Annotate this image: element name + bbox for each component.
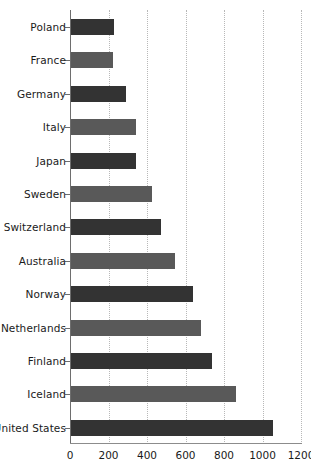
bar[interactable] (71, 253, 175, 269)
x-tick-label: 1200 (288, 449, 311, 461)
bar-row[interactable]: Netherlands (0, 318, 311, 351)
x-tick-label: 0 (67, 449, 74, 461)
bar[interactable] (71, 19, 114, 35)
bar-row[interactable]: Japan (0, 151, 311, 184)
bar-row[interactable]: Norway (0, 284, 311, 317)
bar-row[interactable]: France (0, 50, 311, 83)
category-label: France (0, 54, 66, 66)
bar[interactable] (71, 119, 136, 135)
bar-chart: PolandFranceGermanyItalyJapanSwedenSwitz… (0, 0, 311, 471)
category-label: Finland (0, 355, 66, 367)
bar[interactable] (71, 386, 236, 402)
bar-row[interactable]: Australia (0, 251, 311, 284)
category-label: Norway (0, 288, 66, 300)
bar-row[interactable]: Germany (0, 84, 311, 117)
category-label: Netherlands (0, 322, 66, 334)
category-label: Switzerland (0, 221, 66, 233)
bar[interactable] (71, 86, 126, 102)
category-label: Japan (0, 155, 66, 167)
bar-row[interactable]: Poland (0, 17, 311, 50)
bar[interactable] (71, 219, 161, 235)
category-label: Germany (0, 88, 66, 100)
bar-row[interactable]: Finland (0, 351, 311, 384)
category-label: Poland (0, 21, 66, 33)
bar-row[interactable]: Iceland (0, 384, 311, 417)
bar-row[interactable]: Italy (0, 117, 311, 150)
bar-row[interactable]: Switzerland (0, 217, 311, 250)
bar-row[interactable]: Sweden (0, 184, 311, 217)
bar[interactable] (71, 420, 273, 436)
x-tick-label: 1000 (249, 449, 276, 461)
x-tick-label: 400 (137, 449, 157, 461)
category-label: United States (0, 422, 66, 434)
bar[interactable] (71, 153, 136, 169)
bar[interactable] (71, 186, 152, 202)
category-label: Iceland (0, 388, 66, 400)
x-tick-label: 800 (214, 449, 234, 461)
bar[interactable] (71, 286, 193, 302)
category-label: Italy (0, 121, 66, 133)
bar-row[interactable]: United States (0, 418, 311, 451)
bar[interactable] (71, 320, 201, 336)
x-tick-label: 200 (98, 449, 118, 461)
category-label: Sweden (0, 188, 66, 200)
bar[interactable] (71, 353, 212, 369)
x-axis-tick-labels: 020040060080010001200 (0, 449, 311, 469)
x-tick-label: 600 (175, 449, 195, 461)
category-label: Australia (0, 255, 66, 267)
bar[interactable] (71, 52, 113, 68)
